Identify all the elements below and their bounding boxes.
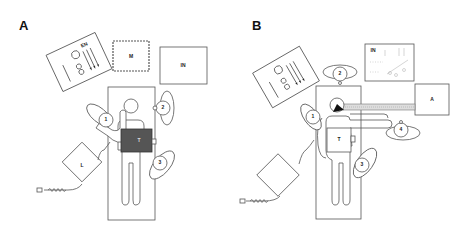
anesthesia-device-a: A (415, 84, 449, 115)
instrument-table-in: IN (160, 47, 207, 84)
pedal-icon-b (240, 199, 245, 203)
staff-3-b-label: 3 (361, 161, 364, 167)
target-label: T (137, 137, 140, 143)
panel-b-label: B (252, 18, 261, 33)
staff-2-b: 2 (323, 65, 357, 85)
laser-label: L (80, 162, 83, 168)
monitor-m: M (113, 41, 149, 71)
equipment-table-en: EN (46, 32, 112, 91)
patient-head-b (330, 98, 344, 112)
breathing-tube (343, 104, 415, 110)
laser-device-l: L (37, 142, 110, 192)
staff-2-label: 2 (162, 104, 165, 110)
panel-b: B IN (240, 18, 449, 219)
laser-device-b (240, 140, 314, 203)
anesthesia-label: A (430, 96, 434, 102)
pedal-icon (37, 188, 42, 192)
instrument-table-in-b: IN (365, 44, 414, 81)
instrument-table-b-label: IN (371, 47, 376, 53)
instrument-table-label: IN (181, 62, 186, 68)
staff-2-b-label: 2 (339, 70, 342, 76)
figure-canvas: A EN M IN (0, 0, 469, 231)
patient-target-t: T (121, 129, 156, 152)
staff-3-label: 3 (159, 159, 162, 165)
equipment-table-b (253, 46, 320, 108)
staff-1-b-label: 1 (312, 113, 315, 119)
monitor-label: M (129, 53, 133, 59)
patient-target-t-b: T (327, 128, 355, 152)
panel-a: A EN M IN (19, 18, 207, 220)
panel-a-label: A (19, 18, 29, 33)
staff-4-b: 4 (386, 121, 420, 141)
staff-2: 2 (153, 91, 174, 125)
staff-4-b-label: 4 (400, 126, 403, 132)
target-b-label: T (337, 136, 340, 142)
staff-1-label: 1 (105, 116, 108, 122)
